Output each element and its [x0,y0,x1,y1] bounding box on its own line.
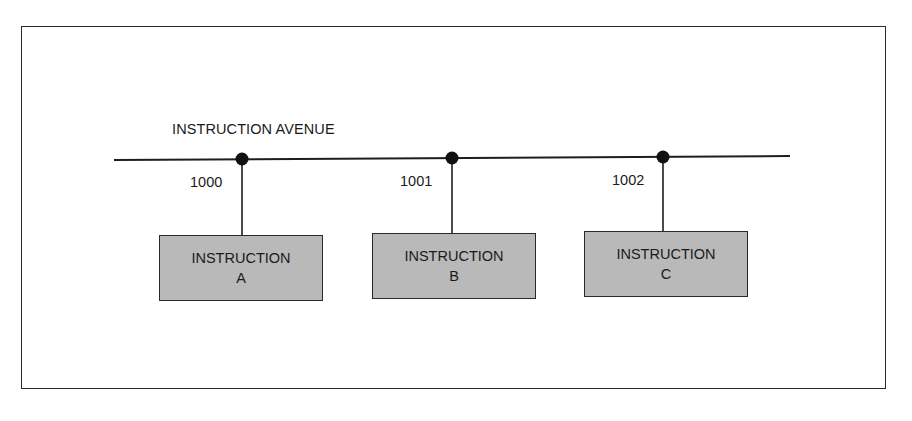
instruction-box-title: INSTRUCTION [191,248,290,268]
instruction-box-letter: C [661,264,671,284]
instruction-box-title: INSTRUCTION [404,246,503,266]
junction-dot-b [446,152,459,165]
address-label-b: 1001 [400,173,432,189]
address-label-a: 1000 [190,174,222,190]
instruction-box-a: INSTRUCTION A [159,235,323,301]
instruction-box-b: INSTRUCTION B [372,233,536,299]
instruction-box-letter: A [236,268,246,288]
junction-dot-c [657,151,670,164]
junction-dot-a [236,153,249,166]
address-label-c: 1002 [612,172,644,188]
instruction-box-c: INSTRUCTION C [584,231,748,297]
instruction-box-title: INSTRUCTION [616,244,715,264]
instruction-box-letter: B [449,266,459,286]
bus-wiring [0,0,912,421]
bus-label: INSTRUCTION AVENUE [172,121,335,137]
